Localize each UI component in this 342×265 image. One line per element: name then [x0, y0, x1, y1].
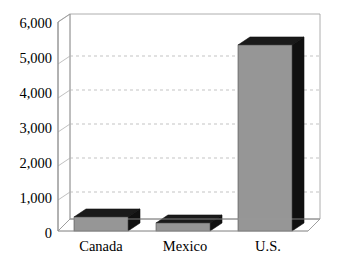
- bar-mexico: [156, 215, 222, 231]
- x-axis: Canada Mexico U.S.: [0, 235, 342, 261]
- bar-chart: 6,000 5,000 4,000 3,000 2,000 1,000 0: [0, 0, 342, 265]
- x-tick-label-us: U.S.: [255, 239, 281, 254]
- bar-mexico-face: [156, 223, 210, 231]
- x-tick-label-canada: Canada: [79, 239, 122, 254]
- plot-area: [0, 0, 342, 265]
- bar-canada: [74, 209, 140, 231]
- bar-us-face: [238, 45, 292, 231]
- bar-us: [238, 37, 304, 231]
- x-tick-label-mexico: Mexico: [163, 239, 207, 254]
- bar-us-side: [292, 37, 304, 231]
